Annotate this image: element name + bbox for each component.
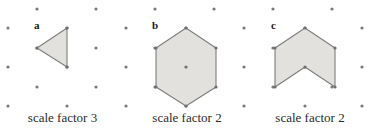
scale-factor-figure: a b c scale factor 3 scale factor 2 scal…: [0, 0, 371, 134]
caption-shape-a: scale factor 3: [0, 110, 125, 126]
vertex-dot: [184, 104, 187, 107]
vertex-dot: [214, 46, 217, 49]
vertex-dot: [154, 46, 157, 49]
vertex-dot: [65, 26, 68, 29]
vertex-dot: [303, 65, 306, 68]
vertex-dot: [65, 65, 68, 68]
shape-label-c: c: [271, 20, 276, 31]
shape-a-triangle: [37, 28, 67, 67]
vertex-dot: [333, 46, 336, 49]
shape-label-b: b: [152, 20, 158, 31]
vertex-dot: [333, 85, 336, 88]
center-dot: [184, 65, 187, 68]
vertex-dot: [273, 85, 276, 88]
vertex-dot: [303, 26, 306, 29]
caption-shape-b: scale factor 2: [125, 110, 249, 126]
vertex-dot: [184, 26, 187, 29]
shape-label-a: a: [34, 20, 40, 31]
vertex-dot: [214, 85, 217, 88]
shape-c-chevron: [275, 28, 335, 87]
vertex-dot: [273, 46, 276, 49]
caption-shape-c: scale factor 2: [249, 110, 371, 126]
vertex-dot: [154, 85, 157, 88]
vertex-dot: [35, 46, 38, 49]
